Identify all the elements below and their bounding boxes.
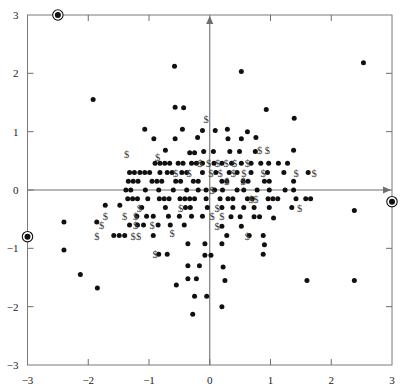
data-point	[192, 294, 197, 299]
data-point	[167, 161, 172, 166]
data-point	[239, 69, 244, 74]
data-point	[194, 276, 199, 281]
data-point	[211, 149, 216, 154]
data-point	[230, 196, 235, 201]
data-point	[255, 188, 260, 193]
x-tick-label: −2	[82, 374, 94, 386]
dollar-marker: $	[94, 231, 99, 242]
dollar-marker: $	[265, 145, 270, 156]
data-point	[204, 188, 209, 193]
data-point	[230, 205, 235, 210]
data-point	[127, 223, 132, 228]
dollar-marker: $	[241, 176, 246, 187]
dollar-marker: $	[210, 185, 215, 196]
data-point	[151, 214, 156, 219]
dollar-marker: $	[293, 168, 298, 179]
data-point	[141, 223, 146, 228]
data-point	[202, 241, 207, 246]
data-point	[239, 161, 244, 166]
data-point	[173, 105, 178, 110]
dollar-marker: $	[152, 249, 157, 260]
data-point	[222, 278, 227, 283]
y-tick-label: 1	[13, 126, 19, 138]
data-point	[219, 241, 224, 246]
data-point	[267, 179, 272, 184]
x-tick-label: 0	[207, 374, 213, 386]
data-point	[283, 188, 288, 193]
data-point	[117, 203, 122, 208]
data-point	[292, 116, 297, 121]
x-axis-arrowhead	[383, 186, 391, 193]
data-point	[204, 196, 209, 201]
data-point	[291, 179, 296, 184]
data-point	[162, 161, 167, 166]
x-tick-label: 1	[268, 374, 274, 386]
data-point	[267, 205, 272, 210]
data-point	[177, 196, 182, 201]
y-tick-label: −2	[7, 301, 19, 313]
data-point	[239, 224, 244, 229]
dollar-marker: $	[131, 231, 136, 242]
x-tick-label: −3	[22, 374, 34, 386]
data-point	[229, 214, 234, 219]
data-point	[111, 233, 116, 238]
data-point	[238, 214, 243, 219]
data-point	[187, 150, 192, 155]
data-point	[177, 214, 182, 219]
data-point	[188, 205, 193, 210]
data-point	[252, 205, 257, 210]
data-point	[221, 265, 226, 270]
data-point	[275, 196, 280, 201]
scatter-plot-figure: −3−2−10123 −3−2−10123 $$$$$$$$$$$$$$$$$$…	[0, 0, 407, 391]
data-point	[192, 150, 197, 155]
data-point	[136, 179, 141, 184]
data-point	[171, 188, 176, 193]
data-point	[291, 188, 296, 193]
data-point	[182, 196, 187, 201]
y-tick-label: −1	[7, 242, 19, 254]
dollar-markers: $$$$$$$$$$$$$$$$$$$$$$$$$$$$$$$$$$$$$$$$…	[94, 114, 317, 260]
data-point	[225, 127, 230, 132]
data-point	[137, 170, 142, 175]
dollar-marker: $	[219, 211, 224, 222]
data-point	[147, 170, 152, 175]
x-tick-label: −1	[143, 374, 155, 386]
data-point	[179, 170, 184, 175]
data-point	[166, 214, 171, 219]
data-point	[200, 214, 205, 219]
data-point	[303, 196, 308, 201]
data-point	[117, 233, 122, 238]
dollar-marker: $	[257, 145, 262, 156]
data-point	[154, 179, 159, 184]
data-point	[294, 196, 299, 201]
data-point	[192, 196, 197, 201]
dollar-marker: $	[124, 149, 129, 160]
data-point	[181, 161, 186, 166]
data-point	[237, 149, 242, 154]
data-point	[163, 205, 168, 210]
data-point	[185, 263, 190, 268]
data-point	[189, 214, 194, 219]
data-point	[204, 294, 209, 299]
x-tick-labels: −3−2−10123	[22, 374, 396, 386]
data-point	[213, 128, 218, 133]
y-tick-labels: −3−2−10123	[7, 9, 19, 371]
data-point	[352, 208, 357, 213]
data-point	[261, 233, 266, 238]
data-point	[257, 214, 262, 219]
data-point	[241, 188, 246, 193]
data-point	[168, 223, 173, 228]
data-point	[306, 170, 311, 175]
dollar-marker: $	[203, 114, 208, 125]
data-point	[253, 135, 258, 140]
data-point	[185, 241, 190, 246]
dollar-marker: $	[224, 176, 229, 187]
data-point	[185, 276, 190, 281]
data-point	[131, 179, 136, 184]
data-point	[157, 170, 162, 175]
data-point	[227, 149, 232, 154]
dollar-marker: $	[224, 158, 229, 169]
data-point	[281, 170, 286, 175]
data-point	[249, 170, 254, 175]
data-point	[270, 196, 275, 201]
